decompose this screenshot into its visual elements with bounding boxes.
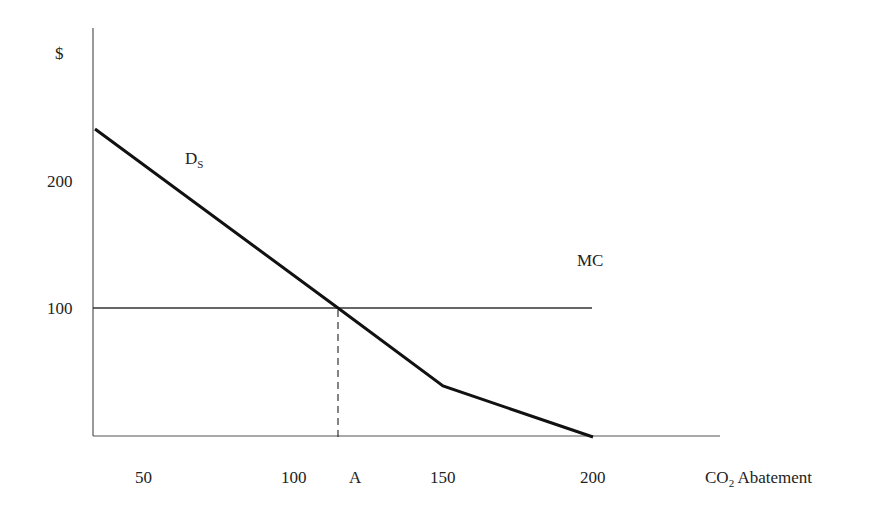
y-axis-label: $ [55, 45, 64, 62]
x-tick-a: A [349, 469, 361, 486]
chart-plot [0, 0, 876, 524]
x-tick-100: 100 [281, 469, 307, 486]
demand-curve-ds [95, 129, 593, 437]
x-tick-50: 50 [135, 469, 152, 486]
ds-label: DS [185, 150, 203, 170]
x-tick-200: 200 [580, 469, 606, 486]
y-tick-200: 200 [47, 173, 73, 190]
x-axis-label: CO2 Abatement [705, 469, 812, 489]
y-tick-100: 100 [47, 300, 73, 317]
x-tick-150: 150 [430, 469, 456, 486]
mc-label: MC [577, 252, 603, 269]
